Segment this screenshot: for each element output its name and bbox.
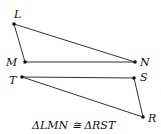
congruent-triangles-diagram: L M N T S R ΔLMN ≅ ΔRST	[0, 0, 161, 134]
congruence-caption: ΔLMN ≅ ΔRST	[31, 119, 117, 132]
label-m: M	[5, 56, 18, 69]
point-m	[23, 60, 27, 64]
point-t	[20, 75, 24, 79]
point-l	[12, 22, 16, 26]
label-t: T	[9, 74, 18, 87]
triangle-lmn-shape	[14, 24, 135, 62]
label-r: R	[147, 112, 156, 125]
label-s: S	[140, 71, 148, 84]
point-r	[141, 115, 145, 119]
point-s	[132, 76, 136, 80]
label-l: L	[13, 8, 21, 21]
triangle-rst: T S R	[9, 71, 156, 125]
label-n: N	[139, 56, 150, 69]
triangle-lmn: L M N	[5, 8, 150, 69]
triangle-rst-shape	[22, 77, 143, 117]
point-n	[133, 60, 137, 64]
